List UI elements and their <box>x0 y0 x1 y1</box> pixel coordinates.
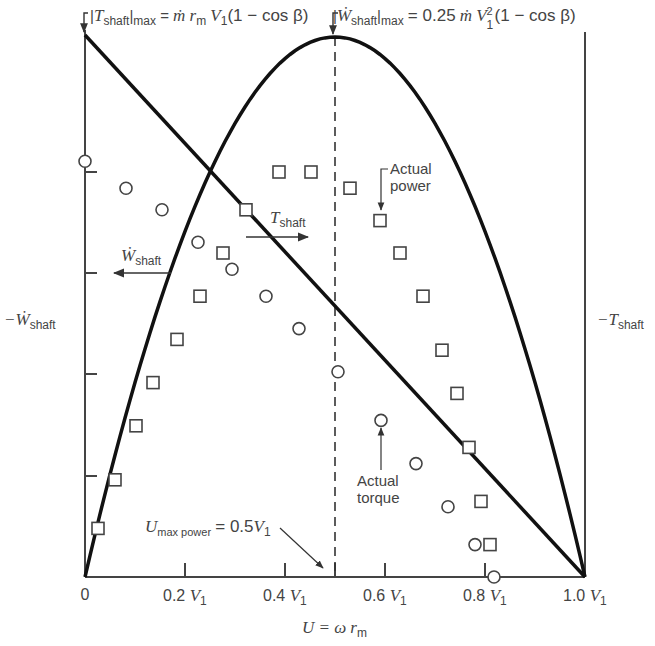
wmax-V-sub: 1 <box>487 18 494 32</box>
actual-torque-marker <box>192 236 204 248</box>
actual-torque-marker <box>332 366 344 378</box>
x-tick-08-V: V <box>490 586 500 605</box>
x-tick-10: 1.0 V1 <box>563 586 607 608</box>
actual-power-marker <box>130 420 142 432</box>
xlabel-r: r <box>350 618 357 637</box>
actual-power-marker <box>451 387 463 399</box>
x-tick-06-V: V <box>390 586 400 605</box>
x-tick-08-text: 0.8 <box>463 587 485 604</box>
torque-max-annotation: |Tshaft|max = ṁ rm V1(1 − cos β) <box>90 6 309 28</box>
actual-power-marker <box>394 247 406 259</box>
actual-power-arrow <box>381 169 388 210</box>
actual-torque-marker <box>442 501 454 513</box>
actual-power-line2: power <box>390 177 432 194</box>
actual-torque-marker <box>488 571 500 583</box>
x-tick-02: 0.2 V1 <box>163 586 207 608</box>
tshaft-label: Tshaft <box>270 208 305 230</box>
x-tick-02-V: V <box>190 586 200 605</box>
actual-power-marker <box>109 474 121 486</box>
x-tick-06-sub: 1 <box>400 594 407 608</box>
wmax-paren: (1 − cos β) <box>495 6 576 25</box>
actual-torque-marker <box>79 155 91 167</box>
actual-power-marker <box>417 290 429 302</box>
wmax-coef: 0.25 <box>423 6 456 25</box>
actual-power-marker <box>436 344 448 356</box>
actual-power-marker <box>171 333 183 345</box>
actual-power-marker <box>344 182 356 194</box>
torque-max-arrow <box>84 13 88 32</box>
wmax-V: V <box>476 6 486 25</box>
umax-symbol: U <box>145 517 157 536</box>
x-tick-10-V: V <box>590 586 600 605</box>
left-axis-sub: shaft <box>30 318 56 332</box>
actual-torque-marker <box>469 539 481 551</box>
x-tick-0-text: 0 <box>81 586 90 603</box>
power-max-annotation: |Ẇshaft|max = 0.25 ṁ V21(1 − cos β) <box>333 6 576 28</box>
actual-power-marker <box>475 495 487 507</box>
actual-power-marker <box>273 166 285 178</box>
right-axis-sub: shaft <box>618 318 644 332</box>
umax-arrow <box>280 528 323 568</box>
x-tick-06-text: 0.6 <box>363 587 385 604</box>
tmax-V: V <box>210 6 220 25</box>
actual-power-marker <box>305 166 317 178</box>
tmax-mdot: ṁ <box>173 6 185 25</box>
wshaft-label: Ẇshaft <box>121 246 161 268</box>
actual-power-marker <box>217 247 229 259</box>
annotation-arrows <box>84 13 388 568</box>
actual-power-marker <box>92 522 104 534</box>
left-axis-symbol: −Ẇ <box>4 310 30 329</box>
wmax-mdot: ṁ <box>460 6 472 25</box>
tshaft-sub: shaft <box>279 216 305 230</box>
actual-torque-marker <box>120 182 132 194</box>
xlabel-r-sub: m <box>357 626 367 640</box>
x-tick-0: 0 <box>81 586 90 604</box>
actual-power-line1: Actual <box>390 160 432 177</box>
actual-torque-label: Actual torque <box>357 472 400 506</box>
umax-V: V <box>254 517 264 536</box>
right-axis-symbol: −T <box>597 310 618 329</box>
x-axis-label: U = ω rm <box>302 618 367 640</box>
actual-power-label: Actual power <box>390 160 432 194</box>
tmax-max: max <box>133 14 156 28</box>
x-tick-04-V: V <box>290 586 300 605</box>
tmax-sub: shaft <box>103 14 129 28</box>
actual-power-marker <box>147 377 159 389</box>
actual-torque-marker <box>226 263 238 275</box>
x-tick-06: 0.6 V1 <box>363 586 407 608</box>
actual-power-marker <box>374 215 386 227</box>
wmax-sup: 2 <box>487 5 493 17</box>
actual-power-marker <box>194 290 206 302</box>
wmax-sub: shaft <box>351 14 377 28</box>
actual-torque-marker <box>293 323 305 335</box>
umax-V-sub: 1 <box>264 525 271 539</box>
xlabel-eq: = ω <box>318 618 346 637</box>
actual-torque-marker <box>375 414 387 426</box>
actual-torque-line1: Actual <box>357 472 400 489</box>
umax-sub: max power <box>157 526 211 538</box>
tmax-paren: (1 − cos β) <box>227 6 308 25</box>
wshaft-sub: shaft <box>135 254 161 268</box>
umax-power-label: Umax power = 0.5V1 <box>145 517 271 539</box>
x-tick-10-sub: 1 <box>600 594 607 608</box>
actual-torque-marker <box>156 204 168 216</box>
x-tick-02-sub: 1 <box>200 594 207 608</box>
x-tick-04-text: 0.4 <box>263 587 285 604</box>
x-tick-10-text: 1.0 <box>563 587 585 604</box>
wmax-symbol: Ẇ <box>337 6 351 25</box>
right-axis-label: −Tshaft <box>597 310 644 332</box>
tmax-symbol: T <box>94 6 103 25</box>
actual-torque-line2: torque <box>357 489 400 506</box>
chart-plot-area <box>0 0 655 646</box>
x-tick-04-sub: 1 <box>300 594 307 608</box>
actual-power-marker <box>463 441 475 453</box>
x-tick-02-text: 0.2 <box>163 587 185 604</box>
actual-power-marker <box>484 539 496 551</box>
actual-torque-marker <box>410 458 422 470</box>
umax-eq: = 0.5 <box>215 517 253 536</box>
wmax-max: max <box>381 14 404 28</box>
x-tick-08: 0.8 V1 <box>463 586 507 608</box>
actual-power-marker <box>240 204 252 216</box>
tmax-r-sub: m <box>196 14 206 28</box>
actual-torque-marker <box>260 290 272 302</box>
